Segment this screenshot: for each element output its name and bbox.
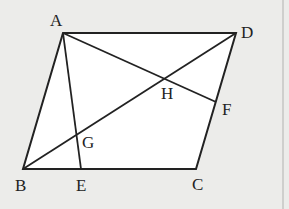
label-G: G (82, 133, 94, 152)
geometry-diagram: A D H F G B E C (0, 0, 289, 209)
label-F: F (222, 100, 231, 119)
label-D: D (241, 23, 253, 42)
label-C: C (192, 175, 203, 194)
label-B: B (15, 176, 26, 195)
label-H: H (161, 84, 173, 103)
label-A: A (50, 11, 63, 30)
label-E: E (76, 176, 86, 195)
